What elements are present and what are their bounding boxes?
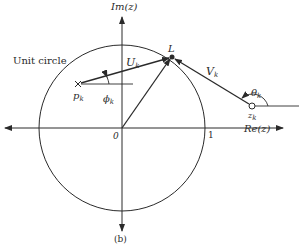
theta-angle-label: θk	[251, 88, 261, 100]
point-L-label: L	[168, 44, 175, 54]
zero-label: zk	[248, 112, 256, 122]
unit-tick-label: 1	[208, 131, 214, 140]
point-L	[170, 55, 175, 60]
figure-caption: (b)	[114, 235, 127, 244]
zero-marker	[249, 103, 255, 109]
V-vector-label: Vk	[206, 66, 218, 79]
unit-circle-label: Unit circle	[13, 56, 67, 66]
pole-marker	[75, 81, 81, 87]
imag-axis-label: Im(z)	[111, 2, 138, 12]
pole-label: pk	[73, 91, 84, 103]
real-axis-label: Re(z)	[244, 124, 271, 134]
origin-label: 0	[113, 132, 119, 141]
U-vector-label: Uk	[126, 57, 140, 70]
phi-angle-label: ϕk	[103, 94, 114, 106]
pole-zero-diagram: Im(z) Re(z) 0 1 Unit circle L Uk Vk pk ϕ…	[0, 0, 301, 250]
phi-angle-arc	[107, 77, 109, 84]
